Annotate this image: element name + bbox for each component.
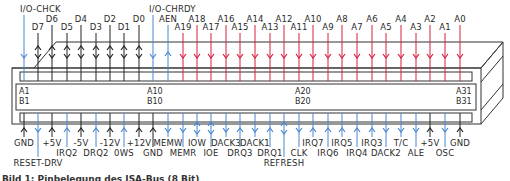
- bottom-pin-drq2: DRQ2: [83, 113, 108, 158]
- bottom-pin-gnd: GND: [143, 113, 163, 158]
- pin-label: D1: [118, 22, 130, 32]
- pin-label: A0: [454, 14, 466, 24]
- bottom-pin-iow: IOW: [188, 113, 207, 148]
- bottom-pin-drq3: DRQ3: [227, 113, 252, 158]
- pin-label: CLK: [291, 148, 308, 158]
- isa-bus-connector-diagram: A1 B1 A10 B10 A20 B20 A31 B31 I/O-CHCKD7…: [0, 0, 510, 181]
- top-pin-a8: A8: [336, 14, 348, 81]
- pin-label: A5: [380, 22, 392, 32]
- slot-label-b20: B20: [295, 97, 311, 106]
- top-pin-d4: D4: [75, 14, 87, 81]
- bottom-pin-dack2: DACK2: [371, 113, 401, 158]
- pin-label: DACK1: [240, 138, 270, 148]
- pin-label: IRQ3: [361, 138, 382, 148]
- pin-label: MEMW: [153, 138, 183, 148]
- pin-label: IRQ2: [56, 148, 77, 158]
- pin-label: A1: [439, 22, 451, 32]
- pin-label: DRQ2: [83, 148, 108, 158]
- pin-label: -5V: [74, 138, 89, 148]
- bottom-pin-irq3: IRQ3: [361, 113, 382, 148]
- top-pin-a0: A0: [454, 14, 466, 81]
- pin-label: A6: [366, 14, 378, 24]
- pin-label: D4: [75, 14, 87, 24]
- pin-label: A10: [304, 14, 321, 24]
- pin-label: D7: [32, 22, 44, 32]
- slot-label-a31: A31: [456, 87, 472, 96]
- bottom-pin-drq1: DRQ1: [257, 113, 282, 158]
- slot-label-a20: A20: [295, 87, 311, 96]
- top-pin-a6: A6: [366, 14, 378, 81]
- pin-label: +5V: [43, 138, 62, 148]
- bottom-pin-memr: MEMR: [170, 113, 197, 158]
- bottom-pin-gnd: GND: [450, 113, 470, 148]
- pin-label: D2: [104, 14, 116, 24]
- slot-label-a10: A10: [147, 87, 163, 96]
- top-pin-d2: D2: [104, 14, 116, 81]
- slot-label-b10: B10: [147, 97, 163, 106]
- pin-label: IRQ6: [317, 148, 338, 158]
- figure-caption: Bild 1: Pinbelegung des ISA-Bus (8 Bit): [2, 174, 199, 181]
- pin-label: 0WS: [114, 148, 134, 158]
- bottom-pin-memw: MEMW: [153, 113, 183, 148]
- pin-label: A8: [336, 14, 348, 24]
- bottom-pin--5v: -5V: [74, 113, 89, 148]
- bottom-pin-clk: CLK: [291, 113, 308, 158]
- pin-label: A9: [322, 22, 334, 32]
- pin-label: MEMR: [170, 148, 197, 158]
- bottom-pin-row: GNDRESET-DRV+5VIRQ2-5VDRQ2-12V0WS+12VGND…: [13, 113, 470, 168]
- bottom-pin-irq4: IRQ4: [346, 113, 367, 158]
- pin-label: IOE: [203, 148, 218, 158]
- top-pin-d6: D6: [46, 14, 58, 81]
- pin-label: OSC: [436, 148, 455, 158]
- bottom-pin-dack1: DACK1: [240, 113, 270, 148]
- pin-label: DRQ3: [227, 148, 252, 158]
- pin-label: IRQ4: [346, 148, 367, 158]
- bottom-pin-ioe: IOE: [203, 113, 218, 158]
- top-pin-d0: D0: [133, 14, 145, 81]
- pin-label: +12V: [127, 138, 152, 148]
- bottom-pin-ale: ALE: [408, 113, 425, 158]
- pin-label: REFRESH: [264, 158, 305, 168]
- bottom-pin--5v: +5V: [421, 113, 440, 148]
- pin-label: GND: [450, 138, 470, 148]
- bottom-pin-osc: OSC: [436, 113, 455, 158]
- pin-label: A7: [351, 22, 363, 32]
- slot-label-b31: B31: [456, 97, 472, 106]
- bottom-pin-irq6: IRQ6: [317, 113, 338, 158]
- pin-label: GND: [14, 138, 34, 148]
- slot-label-b1: B1: [19, 97, 30, 106]
- bottom-pin-t-c: T/C: [393, 113, 409, 148]
- pin-label: A4: [395, 14, 407, 24]
- pin-label: +5V: [421, 138, 440, 148]
- pin-label: A3: [410, 22, 422, 32]
- bottom-pin--12v: -12V: [100, 113, 121, 148]
- bottom-pin--5v: +5V: [43, 113, 62, 148]
- bottom-pin-0ws: 0WS: [114, 113, 134, 158]
- top-pin-a4: A4: [395, 14, 407, 81]
- bottom-pin-gnd: GND: [14, 113, 34, 148]
- slot-label-a1: A1: [19, 87, 30, 96]
- pin-label: IRQ5: [331, 138, 352, 148]
- pin-label: ALE: [408, 148, 425, 158]
- pin-label: D0: [133, 14, 145, 24]
- bottom-pin-irq5: IRQ5: [331, 113, 352, 148]
- pin-label: RESET-DRV: [13, 158, 62, 168]
- bottom-pin-irq2: IRQ2: [56, 113, 77, 158]
- pin-label: IOW: [188, 138, 207, 148]
- pin-label: T/C: [393, 138, 409, 148]
- pin-label: DRQ1: [257, 148, 282, 158]
- pin-label: I/O-CHRDY: [149, 4, 196, 14]
- pin-label: -12V: [100, 138, 121, 148]
- bottom-pin--12v: +12V: [127, 113, 152, 148]
- bottom-pin-irq7: IRQ7: [302, 113, 323, 148]
- pin-label: I/O-CHCK: [20, 4, 61, 14]
- pin-label: D6: [46, 14, 58, 24]
- pin-label: GND: [143, 148, 163, 158]
- pin-label: D5: [61, 22, 73, 32]
- top-pin-a2: A2: [424, 14, 436, 81]
- pin-label: DACK2: [371, 148, 401, 158]
- bottom-pin-dack3: DACK3: [211, 113, 241, 148]
- pin-label: D3: [90, 22, 102, 32]
- pin-label: DACK3: [211, 138, 241, 148]
- pin-label: IRQ7: [302, 138, 323, 148]
